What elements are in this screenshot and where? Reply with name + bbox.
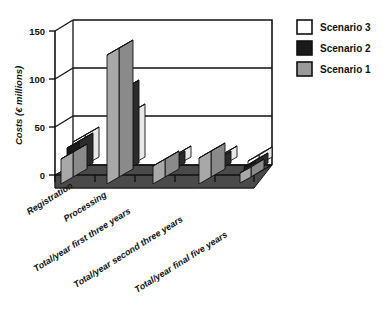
y-tick-label-50: 50 xyxy=(34,122,45,133)
y-axis-title: Costs (€ millions) xyxy=(13,66,24,145)
category-label-processing: Processing xyxy=(62,189,109,223)
y-tick-label-150: 150 xyxy=(29,26,45,37)
category-label-second-three-years: Total/year second three years xyxy=(72,214,185,290)
x-axis-category-labels: Registration Processing Total/year first… xyxy=(25,180,229,295)
back-wall xyxy=(73,20,272,165)
y-axis-ticks: 150 100 50 0 xyxy=(29,26,55,181)
legend-item-scenario-1[interactable]: Scenario 1 xyxy=(297,62,371,76)
legend-swatch-scenario-2 xyxy=(297,41,312,55)
legend-item-scenario-3[interactable]: Scenario 3 xyxy=(297,20,371,34)
legend-label-scenario-3: Scenario 3 xyxy=(320,22,371,33)
bar-scenario1-processing xyxy=(107,40,133,184)
y-tick-label-0: 0 xyxy=(40,170,45,181)
legend-label-scenario-2: Scenario 2 xyxy=(320,43,371,54)
legend-item-scenario-2[interactable]: Scenario 2 xyxy=(297,41,371,55)
chart-legend: Scenario 3 Scenario 2 Scenario 1 xyxy=(297,20,371,76)
y-tick-label-100: 100 xyxy=(29,74,45,85)
chart-svg: 150 100 50 0 Costs (€ millions) xyxy=(0,0,383,310)
legend-swatch-scenario-3 xyxy=(297,20,312,34)
legend-swatch-scenario-1 xyxy=(297,62,312,76)
legend-label-scenario-1: Scenario 1 xyxy=(320,64,371,75)
bar-chart-3d: 150 100 50 0 Costs (€ millions) xyxy=(0,0,383,310)
